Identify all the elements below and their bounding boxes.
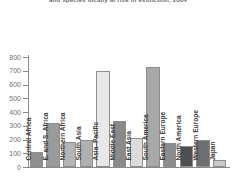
bar[interactable] <box>213 160 226 167</box>
bar-category-label: Japan <box>210 142 217 161</box>
y-axis-tick-label: 600 <box>0 81 21 88</box>
y-axis-tick-label: 200 <box>0 136 21 143</box>
chart-title: and species locally at risk of extinctio… <box>0 0 236 4</box>
bar[interactable] <box>63 142 76 167</box>
y-axis-tick <box>23 98 29 99</box>
bar[interactable] <box>113 121 126 167</box>
y-axis-tick <box>23 153 29 154</box>
bar[interactable] <box>196 140 209 167</box>
y-axis-tick-label: 500 <box>0 95 21 102</box>
y-axis-tick <box>23 71 29 72</box>
y-axis-tick-label: 400 <box>0 109 21 116</box>
y-axis-tick-label: 0 <box>0 164 21 171</box>
y-axis-tick-label: 700 <box>0 67 21 74</box>
y-axis-tick-label: 800 <box>0 54 21 61</box>
y-axis-tick-label: 300 <box>0 122 21 129</box>
bar[interactable] <box>80 140 93 167</box>
bar[interactable] <box>180 146 193 167</box>
bar[interactable] <box>146 67 159 167</box>
y-axis-tick <box>23 85 29 86</box>
y-axis-tick <box>23 140 29 141</box>
y-axis-tick <box>23 112 29 113</box>
bar[interactable] <box>163 143 176 167</box>
x-axis-line <box>28 167 230 168</box>
bar[interactable] <box>96 71 109 167</box>
y-axis-tick <box>23 126 29 127</box>
y-axis-tick <box>23 57 29 58</box>
bar[interactable] <box>46 123 59 167</box>
plot-area: Central AfricaE. and S. AfricaNorthern A… <box>28 57 228 167</box>
chart-figure: and species locally at risk of extinctio… <box>0 0 236 180</box>
bar[interactable] <box>30 152 43 167</box>
y-axis-tick <box>23 167 29 168</box>
y-axis-tick-label: 100 <box>0 150 21 157</box>
bar[interactable] <box>130 138 143 167</box>
